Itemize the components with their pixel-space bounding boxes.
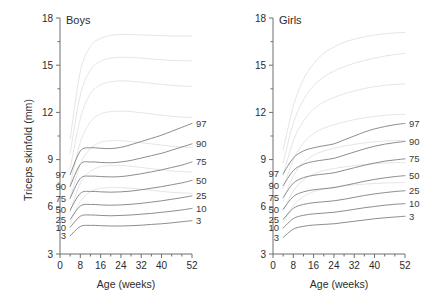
- percentile-label-start: 75: [56, 193, 67, 204]
- percentile-curve: [283, 216, 405, 237]
- percentile-label-end: 3: [196, 215, 201, 226]
- percentile-label-start: 97: [269, 168, 280, 179]
- percentile-curve: [283, 142, 405, 186]
- figure-root: Triceps skinfold (mm) Boys 3691215180816…: [0, 0, 427, 300]
- percentile-curve-light: [70, 188, 192, 224]
- percentile-curve: [70, 180, 192, 210]
- percentile-label-start: 75: [269, 192, 280, 203]
- percentile-curve: [283, 123, 405, 173]
- percentile-curve: [70, 221, 192, 236]
- curves-boys: 97979090757550502525101033: [0, 0, 214, 300]
- percentile-label-end: 75: [196, 156, 207, 167]
- percentile-label-start: 90: [269, 180, 280, 191]
- percentile-curve-light: [283, 183, 405, 223]
- panel-girls: Girls 369121518081624324052Age (weeks) 9…: [213, 0, 427, 300]
- percentile-label-start: 3: [274, 232, 279, 243]
- percentile-label-end: 25: [409, 185, 420, 196]
- percentile-label-end: 50: [196, 175, 207, 186]
- percentile-label-start: 90: [56, 181, 67, 192]
- percentile-curve: [70, 208, 192, 227]
- percentile-label-end: 90: [409, 136, 420, 147]
- percentile-label-end: 90: [196, 138, 207, 149]
- percentile-label-end: 50: [409, 170, 420, 181]
- percentile-label-end: 97: [409, 118, 420, 129]
- percentile-label-end: 10: [196, 203, 207, 214]
- percentile-label-end: 97: [196, 118, 207, 129]
- percentile-label-end: 25: [196, 190, 207, 201]
- percentile-label-start: 97: [56, 169, 67, 180]
- percentile-curve-light: [70, 34, 192, 139]
- percentile-curve: [70, 196, 192, 220]
- percentile-curve-light: [70, 57, 192, 153]
- percentile-label-end: 10: [409, 198, 420, 209]
- percentile-curve-light: [283, 32, 405, 150]
- percentile-label-end: 3: [409, 211, 414, 222]
- panel-boys: Boys 369121518081624324052Age (weeks) 97…: [0, 0, 214, 300]
- percentile-curve-light: [283, 84, 405, 176]
- curves-girls: 97979090757550502525101033: [213, 0, 427, 300]
- percentile-label-end: 75: [409, 153, 420, 164]
- percentile-label-start: 3: [61, 230, 66, 241]
- percentile-curve: [283, 204, 405, 228]
